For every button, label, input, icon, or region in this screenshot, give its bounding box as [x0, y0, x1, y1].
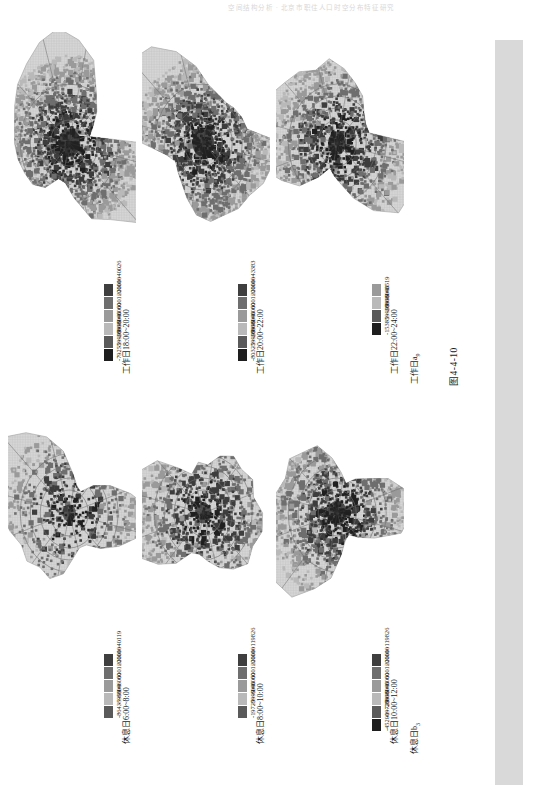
legend-swatch: [372, 297, 381, 309]
legend-swatch: [104, 706, 113, 718]
legend-swatch: [372, 654, 381, 666]
legend-swatch: [104, 667, 113, 679]
map-panel-holiday-8-10: 休息日8:00~10:0020001~1198266001~200001~600…: [142, 402, 270, 754]
subfigure-label-index: 3: [415, 723, 421, 726]
legend-swatch: [238, 680, 247, 692]
legend-swatch: [104, 284, 113, 296]
legend-swatch: [238, 654, 247, 666]
legend-swatch: [372, 310, 381, 322]
legend-swatch: [238, 706, 247, 718]
legend-label: -80325~-20000: [249, 321, 256, 361]
legend-swatch: [372, 719, 381, 731]
subfigure-label-weekday-22-24: 工作日a9: [408, 353, 421, 384]
choropleth-map-weekday-20-22: [142, 32, 270, 282]
legend-label: -19729~-6000: [249, 682, 256, 718]
figure-plate: 图4-4-10 工作日18:00~20:0020001~400266001~20…: [0, 14, 545, 795]
legend-swatch: [372, 323, 381, 335]
map-panel-weekday-22-24: 工作日22:00~24:001~3519-5999~0-19999~-6000-…: [276, 32, 404, 384]
legend-swatch: [104, 680, 113, 692]
legend-swatch: [372, 284, 381, 296]
legend-label: -15385~-20000: [383, 295, 390, 335]
choropleth-map-weekday-22-24: [276, 32, 404, 282]
legend-swatch: [372, 667, 381, 679]
map-panel-weekday-18-20: 工作日18:00~20:0020001~400266001~200001~600…: [8, 32, 136, 384]
legend-label: -45200~-20000: [383, 691, 390, 731]
legend-swatch: [104, 323, 113, 335]
legend-swatch: [238, 336, 247, 348]
legend-swatch: [372, 680, 381, 692]
legend-swatch: [104, 693, 113, 705]
legend-swatch: [238, 349, 247, 361]
legend-swatch: [372, 706, 381, 718]
running-header: 空间结构分析 · 北京市职住人口时空分布特征研究: [228, 2, 540, 13]
subfigure-label-text: 工作日a: [410, 356, 419, 384]
legend-swatch: [104, 310, 113, 322]
legend-swatch: [372, 693, 381, 705]
figure-caption: 图4-4-10: [446, 347, 460, 386]
legend-swatch: [104, 297, 113, 309]
legend-swatch: [238, 284, 247, 296]
legend-swatch: [238, 323, 247, 335]
legend-swatch: [238, 667, 247, 679]
legend-swatch: [104, 349, 113, 361]
choropleth-map-holiday-6-8: [8, 402, 136, 652]
legend-swatch: [104, 654, 113, 666]
subfigure-label-text: 休息日b: [410, 726, 419, 754]
legend-swatch: [238, 297, 247, 309]
legend-swatch: [104, 336, 113, 348]
choropleth-map-weekday-18-20: [8, 32, 136, 282]
subfigure-label-index: 9: [415, 353, 421, 356]
subfigure-label-holiday-10-12: 休息日b3: [408, 723, 421, 754]
gutter-block: [495, 40, 523, 785]
map-panel-weekday-20-22: 工作日20:00~22:0020001~433836001~200001~600…: [142, 32, 270, 384]
legend-label: -79255~-20000: [115, 321, 122, 361]
legend-swatch: [238, 693, 247, 705]
choropleth-map-holiday-8-10: [142, 402, 270, 652]
legend-swatch: [238, 310, 247, 322]
choropleth-map-holiday-10-12: [276, 402, 404, 652]
map-panel-holiday-6-8: 休息日6:00~8:0020001~401196001~200001~6000-…: [8, 402, 136, 754]
map-panel-holiday-10-12: 休息日10:00~12:0020001~1198266001~200001~60…: [276, 402, 404, 754]
legend-label: -8643~-6000: [115, 685, 122, 718]
